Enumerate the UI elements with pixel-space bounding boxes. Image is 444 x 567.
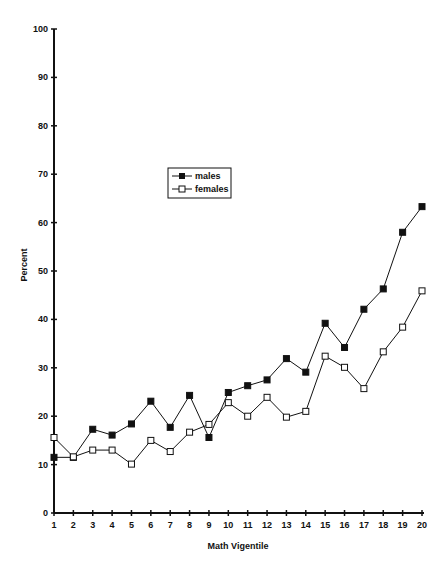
open-square-marker-icon [264, 394, 270, 400]
series-line [54, 207, 422, 458]
filled-square-marker-icon [51, 454, 57, 460]
x-tick-label: 7 [168, 520, 173, 530]
x-tick-label: 15 [320, 520, 330, 530]
open-square-marker-icon [187, 429, 193, 435]
x-tick-label: 3 [90, 520, 95, 530]
filled-square-marker-icon [187, 392, 193, 398]
x-tick-label: 11 [243, 520, 253, 530]
x-tick-label: 19 [398, 520, 408, 530]
x-tick-label: 5 [129, 520, 134, 530]
x-tick-label: 6 [148, 520, 153, 530]
x-tick-label: 10 [223, 520, 233, 530]
y-tick-label: 60 [38, 218, 48, 228]
filled-square-marker-icon [128, 421, 134, 427]
open-square-marker-icon [206, 421, 212, 427]
filled-square-marker-icon [148, 398, 154, 404]
legend-item-females: females [172, 184, 229, 194]
filled-square-marker-icon [322, 320, 328, 326]
y-tick-label: 0 [43, 508, 48, 518]
x-tick-label: 14 [301, 520, 311, 530]
filled-square-marker-icon [419, 204, 425, 210]
y-axis-title: Percent [19, 248, 29, 281]
legend-label-females: females [195, 184, 229, 194]
open-square-marker-icon [361, 386, 367, 392]
filled-square-marker-icon [361, 306, 367, 312]
x-tick-label: 12 [262, 520, 272, 530]
open-square-marker-icon [342, 364, 348, 370]
filled-square-marker-icon [245, 383, 251, 389]
filled-square-marker-icon [225, 389, 231, 395]
y-tick-label: 100 [33, 24, 48, 34]
x-tick-label: 1 [51, 520, 56, 530]
open-square-marker-icon [90, 447, 96, 453]
filled-square-marker-icon [109, 432, 115, 438]
series-group [51, 204, 425, 467]
x-axis: 1234567891011121314151617181920 [51, 510, 427, 530]
x-tick-label: 4 [110, 520, 115, 530]
x-tick-label: 9 [206, 520, 211, 530]
x-tick-label: 18 [378, 520, 388, 530]
y-tick-label: 30 [38, 363, 48, 373]
y-tick-label: 50 [38, 266, 48, 276]
filled-square-marker-icon [206, 434, 212, 440]
open-square-marker-icon [148, 437, 154, 443]
open-square-marker-icon [225, 400, 231, 406]
x-tick-label: 20 [417, 520, 427, 530]
open-square-marker-icon [322, 353, 328, 359]
series-males [51, 204, 425, 461]
filled-square-marker-icon [303, 369, 309, 375]
x-tick-label: 17 [359, 520, 369, 530]
y-tick-label: 70 [38, 169, 48, 179]
filled-square-marker-icon [90, 426, 96, 432]
legend: males females [168, 168, 231, 198]
open-square-marker-icon [380, 349, 386, 355]
y-tick-label: 10 [38, 460, 48, 470]
x-tick-label: 8 [187, 520, 192, 530]
y-tick-label: 40 [38, 314, 48, 324]
open-square-marker-icon [70, 454, 76, 460]
open-square-marker-icon [303, 408, 309, 414]
open-square-marker-icon [51, 434, 57, 440]
x-axis-title: Math Vigentile [208, 541, 269, 551]
y-tick-label: 90 [38, 72, 48, 82]
filled-square-marker-icon [342, 344, 348, 350]
filled-square-marker-icon [380, 286, 386, 292]
open-square-marker-icon [128, 461, 134, 467]
x-tick-label: 13 [281, 520, 291, 530]
series-females [51, 288, 425, 467]
open-square-marker-icon [283, 414, 289, 420]
y-tick-label: 20 [38, 411, 48, 421]
open-square-marker-icon [167, 449, 173, 455]
line-chart: 0102030405060708090100 12345678910111213… [0, 0, 444, 567]
open-square-marker-icon [400, 324, 406, 330]
filled-square-marker-icon [167, 424, 173, 430]
y-axis: 0102030405060708090100 [33, 24, 57, 518]
legend-label-males: males [195, 171, 221, 181]
open-square-marker-icon [109, 447, 115, 453]
x-tick-label: 2 [71, 520, 76, 530]
open-square-marker-icon [419, 288, 425, 294]
open-square-marker-icon [245, 413, 251, 419]
filled-square-marker-icon [283, 356, 289, 362]
filled-square-marker-icon [179, 173, 185, 179]
x-tick-label: 16 [340, 520, 350, 530]
open-square-marker-icon [179, 186, 185, 192]
y-tick-label: 80 [38, 121, 48, 131]
filled-square-marker-icon [400, 229, 406, 235]
filled-square-marker-icon [264, 377, 270, 383]
